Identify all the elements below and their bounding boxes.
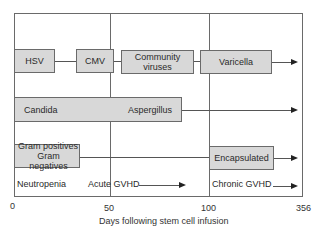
varicella-box: Varicella: [200, 50, 272, 74]
varicella-label: Varicella: [219, 57, 253, 67]
gram-box: Gram positives Gram negatives: [14, 144, 80, 168]
tick-50: 50: [104, 203, 114, 213]
community-label-line2: viruses: [143, 62, 172, 72]
encapsulated-box: Encapsulated: [209, 146, 274, 170]
community-viruses-box: Community viruses: [121, 50, 194, 74]
encapsulated-arrow-line: [274, 158, 291, 159]
chronic-gvhd-label: Chronic GVHD: [212, 179, 272, 189]
hsv-box: HSV: [14, 49, 55, 73]
gram-negatives-label: Gram negatives: [18, 151, 79, 171]
tick-356: 356: [296, 203, 311, 213]
fungi-box: Candida Aspergillus: [14, 97, 182, 122]
aspergillus-label: Aspergillus: [128, 105, 172, 115]
cmv-box: CMV: [76, 49, 114, 73]
aspergillus-arrow-line: [182, 110, 291, 111]
varicella-arrow-line: [271, 62, 291, 63]
chronic-gvhd-arrow-line: [273, 186, 291, 187]
chronic-gvhd-arrow-icon: [291, 183, 298, 189]
encapsulated-label: Encapsulated: [214, 153, 269, 163]
virus-connector-2: [113, 61, 121, 62]
gram-connector-line: [80, 157, 209, 158]
gram-positives-label: Gram positives: [18, 141, 78, 151]
x-axis-label: Days following stem cell infusion: [99, 216, 229, 226]
acute-gvhd-arrow-icon: [179, 182, 186, 188]
neutropenia-label: Neutropenia: [17, 179, 66, 189]
acute-gvhd-arrow-line: [139, 185, 179, 186]
community-label-line1: Community: [135, 52, 181, 62]
cmv-label: CMV: [85, 56, 105, 66]
acute-gvhd-label: Acute GVHD: [88, 179, 140, 189]
tick-0: 0: [10, 201, 15, 211]
tick-100: 100: [201, 203, 216, 213]
virus-connector-1: [54, 61, 76, 62]
virus-connector-3: [193, 61, 200, 62]
varicella-arrow-icon: [291, 59, 298, 65]
candida-label: Candida: [24, 105, 58, 115]
encapsulated-arrow-icon: [291, 155, 298, 161]
aspergillus-arrow-icon: [291, 107, 298, 113]
hsv-label: HSV: [25, 56, 44, 66]
